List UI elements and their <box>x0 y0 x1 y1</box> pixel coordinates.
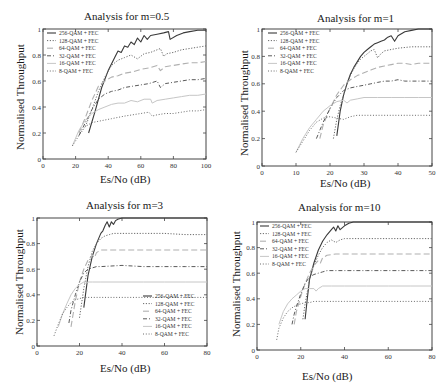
y-tick-label: 0.8 <box>246 244 255 252</box>
chart-panel-m1: Analysis for m=1 Normalised Throughput E… <box>222 0 444 195</box>
legend: 256-QAM + FEC128-QAM + FEC64-QAM + FEC32… <box>47 30 99 74</box>
y-tick-label: 0.2 <box>26 317 35 325</box>
legend-entry: 32-QAM + FEC <box>280 53 317 59</box>
x-tick-label: 20 <box>327 169 335 177</box>
series-line <box>337 29 432 136</box>
y-tick-label: 0.2 <box>32 130 41 138</box>
x-tick-label: 80 <box>170 162 178 170</box>
x-tick-label: 10 <box>293 169 301 177</box>
plot-area: 02040608000.20.40.60.81256-QAM + FEC128-… <box>222 195 444 389</box>
y-tick-label: 0.4 <box>26 291 35 299</box>
series-line <box>72 110 206 146</box>
y-tick-label: 1 <box>38 26 42 34</box>
legend-entry: 256-QAM + FEC <box>59 30 99 36</box>
legend-entry: 32-QAM + FEC <box>272 246 309 252</box>
legend-entry: 16-QAM + FEC <box>272 253 309 259</box>
x-tick-label: 80 <box>204 349 212 357</box>
series-line <box>89 30 206 133</box>
y-tick-label: 0.2 <box>246 321 255 329</box>
y-tick-label: 0 <box>38 156 42 164</box>
x-tick-label: 80 <box>429 353 437 361</box>
x-tick-label: 60 <box>161 349 169 357</box>
series-line <box>85 46 206 127</box>
x-tick-label: 30 <box>361 169 369 177</box>
y-tick-label: 0 <box>252 347 256 355</box>
x-tick-label: 20 <box>297 353 305 361</box>
legend-entry: 32-QAM + FEC <box>155 316 192 322</box>
series-line <box>296 98 432 153</box>
x-tick-label: 20 <box>76 349 84 357</box>
legend: 256-QAM + FEC128-QAM + FEC64-QAM + FEC32… <box>260 223 312 267</box>
x-tick-label: 0 <box>255 353 259 361</box>
legend-entry: 64-QAM + FEC <box>280 45 317 51</box>
x-tick-label: 0 <box>41 162 45 170</box>
legend-entry: 256-QAM + FEC <box>280 30 320 36</box>
y-tick-label: 0 <box>257 163 261 171</box>
legend-entry: 32-QAM + FEC <box>59 53 96 59</box>
x-tick-label: 60 <box>385 353 393 361</box>
chart-panel-m0-5: Analysis for m=0.5 Normalised Throughput… <box>0 0 222 195</box>
y-tick-label: 1 <box>32 215 36 223</box>
x-tick-label: 0 <box>35 349 39 357</box>
x-tick-label: 60 <box>137 162 145 170</box>
y-tick-label: 0.8 <box>26 240 35 248</box>
x-tick-label: 40 <box>341 353 349 361</box>
series-line <box>292 271 432 325</box>
y-tick-label: 0.2 <box>251 135 260 143</box>
legend-entry: 16-QAM + FEC <box>59 60 96 66</box>
legend-entry: 16-QAM + FEC <box>280 60 317 66</box>
y-tick-label: 1 <box>252 219 256 227</box>
legend-entry: 8-QAM + FEC <box>155 331 189 337</box>
legend-entry: 128-QAM + FEC <box>272 231 312 237</box>
legend-entry: 128-QAM + FEC <box>280 38 320 44</box>
x-tick-label: 0 <box>260 169 264 177</box>
y-tick-label: 0.6 <box>251 80 260 88</box>
y-tick-label: 0.4 <box>32 104 41 112</box>
series-line <box>296 115 432 152</box>
legend-entry: 64-QAM + FEC <box>59 45 96 51</box>
plot-area: 02040608000.20.40.60.81256-QAM + FEC128-… <box>0 195 222 389</box>
chart-panel-m10: Analysis for m=10 Normalised Throughput … <box>222 195 444 389</box>
y-tick-label: 0.4 <box>246 295 255 303</box>
y-tick-label: 0.6 <box>246 270 255 278</box>
series-line <box>279 286 432 324</box>
x-tick-label: 40 <box>395 169 403 177</box>
y-tick-label: 0.6 <box>26 266 35 274</box>
legend-entry: 16-QAM + FEC <box>155 323 192 329</box>
series-line <box>303 239 432 320</box>
legend-entry: 64-QAM + FEC <box>155 308 192 314</box>
legend-entry: 8-QAM + FEC <box>272 261 306 267</box>
chart-panel-m3: Analysis for m=3 Normalised Throughput E… <box>0 195 222 389</box>
legend: 256-QAM + FEC128-QAM + FEC64-QAM + FEC32… <box>143 293 195 337</box>
legend-entry: 256-QAM + FEC <box>155 293 195 299</box>
series-line <box>277 301 432 339</box>
y-tick-label: 0.8 <box>32 52 41 60</box>
legend-entry: 128-QAM + FEC <box>59 38 99 44</box>
x-tick-label: 100 <box>201 162 212 170</box>
legend-entry: 8-QAM + FEC <box>280 68 314 74</box>
plot-area: 0102030405000.20.40.60.81256-QAM + FEC12… <box>222 0 444 195</box>
y-tick-label: 0 <box>32 343 36 351</box>
legend-entry: 128-QAM + FEC <box>155 301 195 307</box>
y-tick-label: 1 <box>257 26 261 34</box>
legend-entry: 64-QAM + FEC <box>272 238 309 244</box>
series-line <box>79 62 206 134</box>
y-tick-label: 0.8 <box>251 53 260 61</box>
legend-entry: 256-QAM + FEC <box>272 223 312 229</box>
x-tick-label: 20 <box>72 162 80 170</box>
legend: 256-QAM + FEC128-QAM + FEC64-QAM + FEC32… <box>268 30 320 74</box>
y-tick-label: 0.6 <box>32 78 41 86</box>
series-line <box>316 80 432 139</box>
x-tick-label: 40 <box>105 162 113 170</box>
x-tick-label: 40 <box>119 349 127 357</box>
series-line <box>320 63 432 138</box>
legend-entry: 8-QAM + FEC <box>59 68 93 74</box>
y-tick-label: 0.4 <box>251 108 260 116</box>
x-tick-label: 50 <box>429 169 437 177</box>
series-line <box>333 47 432 139</box>
plot-area: 02040608010000.20.40.60.81256-QAM + FEC1… <box>0 0 222 195</box>
